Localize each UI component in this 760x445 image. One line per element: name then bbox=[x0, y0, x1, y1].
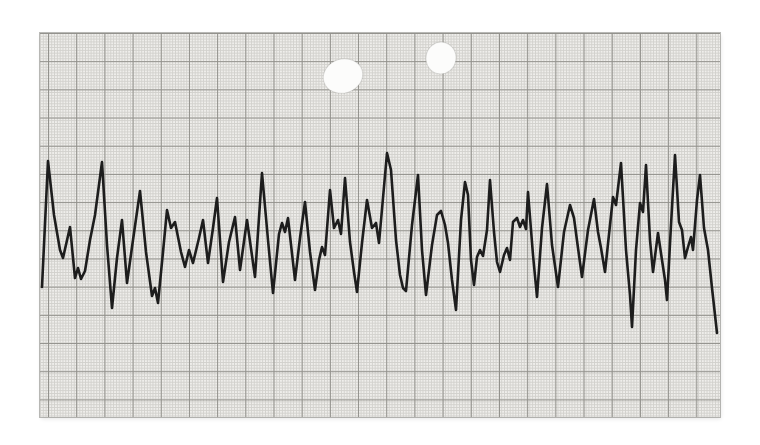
scanned-strip-chart bbox=[0, 0, 760, 445]
graph-paper bbox=[40, 33, 720, 417]
